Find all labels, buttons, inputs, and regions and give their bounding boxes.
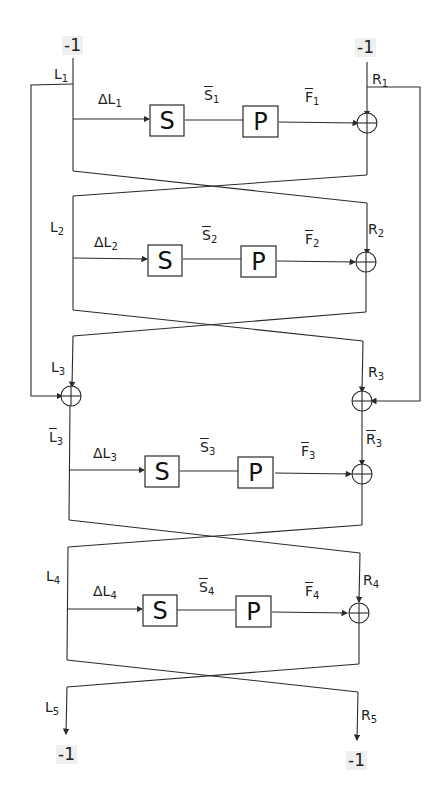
label-F2bar: F2: [305, 232, 319, 249]
label-L2: L2: [50, 220, 64, 237]
label-R3bar: R3: [366, 432, 382, 449]
output-left: -1: [56, 745, 77, 764]
label-dL4: ΔL4: [93, 584, 117, 601]
label-R1: R1: [372, 72, 388, 89]
label-L1: L1: [54, 67, 68, 84]
xor-icon: [357, 113, 377, 133]
xor-icon: [352, 391, 372, 411]
p-box-label: P: [241, 250, 276, 274]
label-L3bar: L3: [49, 430, 63, 447]
p-box-label: P: [243, 110, 278, 134]
label-S2bar: S2: [202, 228, 217, 245]
label-S3bar: S3: [200, 440, 215, 457]
label-F1bar: F1: [305, 90, 319, 107]
p-box-label: P: [236, 600, 271, 624]
xor-icon: [61, 386, 81, 406]
label-F4bar: F4: [305, 584, 319, 601]
label-dL1: ΔL1: [98, 92, 122, 109]
input-left: -1: [62, 36, 83, 55]
label-L4: L4: [46, 569, 60, 586]
label-R5: R5: [361, 708, 377, 725]
label-R2: R2: [368, 222, 384, 239]
feistel-diagram: -1 -1 -1 -1 L1 R1 ΔL1 S1 F1 S P L2 R2 ΔL…: [0, 0, 447, 799]
label-dL2: ΔL2: [94, 235, 118, 252]
s-box-label: S: [148, 249, 182, 273]
s-box-label: S: [150, 109, 184, 133]
xor-icon: [352, 464, 372, 484]
input-right: -1: [355, 38, 376, 57]
label-L5: L5: [45, 700, 59, 717]
output-right: -1: [346, 751, 367, 770]
xor-icon: [349, 603, 369, 623]
label-F3bar: F3: [301, 444, 315, 461]
s-box-label: S: [145, 460, 179, 484]
label-dL3: ΔL3: [93, 446, 117, 463]
label-R4: R4: [363, 573, 379, 590]
p-box-label: P: [238, 461, 273, 485]
s-box-label: S: [143, 599, 177, 623]
xor-icon: [356, 252, 376, 272]
diagram-wires: [0, 0, 447, 799]
label-R3: R3: [368, 365, 384, 382]
label-S1bar: S1: [204, 88, 219, 105]
label-L3: L3: [51, 360, 65, 377]
label-S4bar: S4: [199, 580, 214, 597]
